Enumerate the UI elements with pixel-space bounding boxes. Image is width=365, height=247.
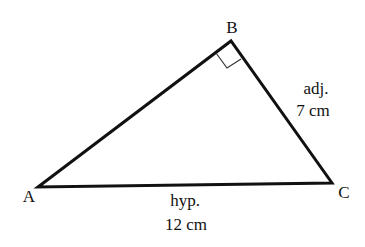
vertex-label-a: A: [23, 187, 36, 206]
side-ac-length: 12 cm: [165, 215, 207, 234]
triangle-abc: [38, 41, 332, 187]
vertex-label-c: C: [338, 183, 349, 202]
side-ac-role: hyp.: [170, 191, 200, 210]
side-bc-length: 7 cm: [296, 101, 330, 120]
side-bc-role: adj.: [303, 79, 328, 98]
right-angle-marker: [216, 53, 241, 68]
triangle-diagram: B A C adj. 7 cm hyp. 12 cm: [0, 0, 365, 247]
vertex-label-b: B: [226, 18, 237, 37]
